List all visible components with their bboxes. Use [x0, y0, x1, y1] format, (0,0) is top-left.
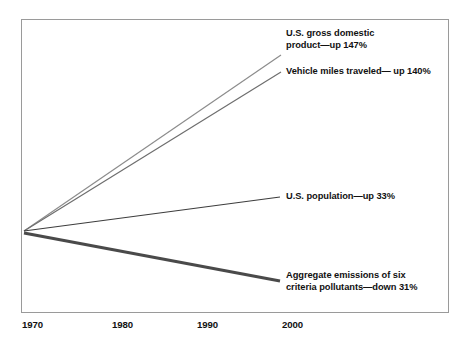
x-tick-1980: 1980: [112, 319, 133, 330]
series-label-gdp: U.S. gross domestic product—up 147%: [286, 28, 374, 51]
series-line-emissions: [24, 233, 280, 281]
series-line-vehicle-miles: [24, 72, 281, 231]
x-tick-2000: 2000: [282, 319, 303, 330]
series-line-population: [24, 197, 280, 231]
series-label-emissions: Aggregate emissions of six criteria poll…: [286, 270, 417, 293]
series-label-population: U.S. population—up 33%: [286, 191, 395, 203]
series-lines-layer: [0, 0, 474, 356]
x-tick-1990: 1990: [197, 319, 218, 330]
chart-container: U.S. gross domestic product—up 147% Vehi…: [0, 0, 474, 356]
x-axis-tick-labels: 1970 1980 1990 2000: [0, 319, 474, 335]
series-label-vehicle-miles: Vehicle miles traveled— up 140%: [286, 66, 431, 78]
series-line-gdp: [24, 55, 281, 231]
x-tick-1970: 1970: [22, 319, 43, 330]
